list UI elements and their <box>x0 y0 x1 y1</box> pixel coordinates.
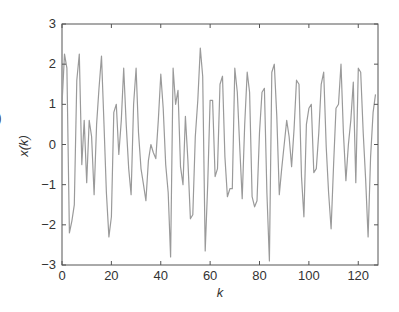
y-tick-label: 0 <box>49 137 56 152</box>
x-tick-label: 20 <box>104 268 118 283</box>
x-tick-label: 60 <box>203 268 217 283</box>
y-tick-label: 1 <box>49 96 56 111</box>
y-tick-label: −3 <box>41 257 56 272</box>
x-axis-label: k <box>217 285 225 300</box>
y-tick-label: 2 <box>49 56 56 71</box>
plot-area <box>62 24 378 265</box>
y-tick-label: −1 <box>41 177 56 192</box>
y-axis-label: x(k) <box>16 135 31 158</box>
series-line <box>62 48 376 261</box>
y-tick-label: 3 <box>49 16 56 31</box>
y-tick-label: −2 <box>41 217 56 232</box>
x-tick-label: 120 <box>347 268 369 283</box>
x-tick-label: 0 <box>58 268 65 283</box>
line-chart: 020406080100120−3−2−10123 k x(k) <box>0 0 399 312</box>
x-tick-label: 100 <box>298 268 320 283</box>
x-tick-label: 80 <box>252 268 266 283</box>
x-tick-label: 40 <box>154 268 168 283</box>
